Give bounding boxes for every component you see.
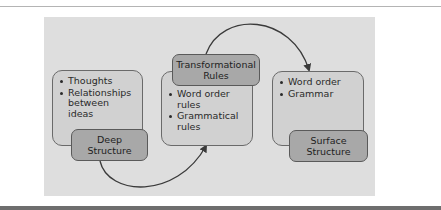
list-item: Grammar: [279, 89, 357, 100]
transformational-rules-label: Transformational Rules: [172, 54, 260, 86]
label-line: Deep: [87, 134, 131, 146]
transformational-rules-list: Word order rules Grammatical rules: [168, 89, 246, 132]
list-item: Word order rules: [168, 89, 246, 110]
deep-structure-label: Deep Structure: [71, 129, 148, 161]
label-line: Surface: [306, 135, 350, 147]
list-item: Grammatical rules: [168, 111, 246, 132]
label-line: Structure: [87, 145, 131, 157]
deep-structure-list: Thoughts Relationships between ideas: [59, 76, 136, 119]
list-item: Word order: [279, 77, 357, 88]
bottom-rule: [0, 206, 441, 210]
label-line: Structure: [306, 146, 350, 158]
surface-structure-label: Surface Structure: [289, 130, 368, 162]
surface-structure-list: Word order Grammar: [279, 77, 357, 99]
list-item: Relationships between ideas: [59, 88, 136, 120]
list-item: Thoughts: [59, 76, 136, 87]
label-line: Rules: [176, 70, 256, 82]
label-line: Transformational: [176, 59, 256, 71]
